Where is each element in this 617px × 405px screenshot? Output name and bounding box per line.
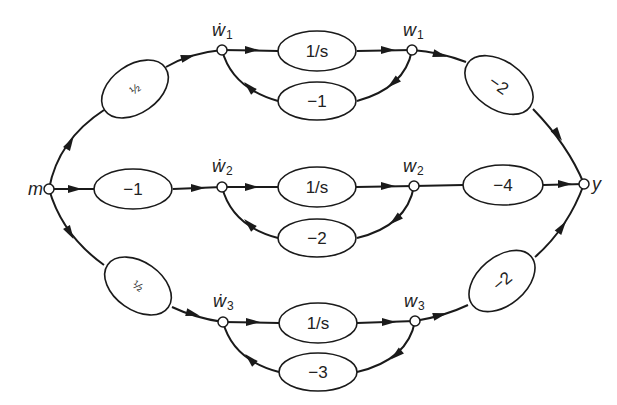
- svg-text:ẇ: ẇ: [212, 156, 226, 176]
- svg-text:1: 1: [226, 28, 233, 42]
- edge-w1-feedback-in: [222, 50, 278, 101]
- label-w2dot: ẇ 2: [212, 156, 233, 178]
- node-w3dot: [218, 317, 228, 327]
- edge-neg2-upper-to-y: [533, 109, 584, 184]
- svg-text:−1: −1: [123, 180, 142, 199]
- block-feedback-3: −3: [279, 353, 357, 391]
- svg-text:−2: −2: [307, 229, 326, 248]
- label-w1dot: ẇ 1: [212, 20, 233, 42]
- node-w3: [410, 316, 420, 326]
- label-w3dot: ẇ 3: [213, 291, 234, 313]
- block-neg4: −4: [463, 165, 543, 205]
- edge-w2-feedback-out: [357, 186, 414, 238]
- svg-text:−1: −1: [307, 92, 326, 111]
- block-half-upper: ½: [91, 48, 179, 130]
- svg-text:2: 2: [417, 164, 424, 178]
- node-w1: [407, 45, 417, 55]
- label-w2: w 2: [403, 156, 424, 178]
- svg-text:3: 3: [418, 299, 425, 313]
- svg-text:2: 2: [226, 164, 233, 178]
- edge-w3-feedback-out: [357, 321, 415, 372]
- svg-text:3: 3: [227, 299, 234, 313]
- label-m: m: [28, 179, 43, 199]
- label-y: y: [590, 174, 602, 194]
- svg-text:1: 1: [417, 28, 424, 42]
- node-m: [44, 184, 54, 194]
- svg-text:ẇ: ẇ: [212, 20, 226, 40]
- label-w1: w 1: [403, 20, 424, 42]
- block-integrator-3: 1/s: [279, 303, 357, 343]
- edge-half-upper-to-w1dot: [166, 50, 222, 67]
- edge-m-to-half-upper: [49, 110, 104, 189]
- edge-w2-feedback-in: [222, 187, 278, 238]
- svg-text:1/s: 1/s: [306, 42, 329, 61]
- edge-neg2-lower-to-y: [535, 184, 584, 257]
- svg-text:−3: −3: [308, 363, 327, 382]
- svg-text:w: w: [403, 156, 417, 176]
- node-w2dot: [217, 182, 227, 192]
- svg-text:ẇ: ẇ: [213, 291, 227, 311]
- block-feedback-1: −1: [278, 82, 356, 120]
- svg-text:−4: −4: [493, 176, 512, 195]
- block-integrator-2: 1/s: [278, 167, 356, 207]
- edge-m-to-half-lower: [49, 189, 104, 265]
- node-y: [579, 179, 589, 189]
- block-integrator-1: 1/s: [278, 31, 356, 71]
- svg-text:w: w: [404, 291, 418, 311]
- node-w2: [409, 181, 419, 191]
- edge-w1-feedback-out: [357, 50, 412, 101]
- block-feedback-2: −2: [278, 219, 356, 257]
- svg-text:1/s: 1/s: [306, 178, 329, 197]
- block-neg2-lower: −2: [457, 238, 546, 324]
- block-half-lower: ½: [94, 245, 182, 327]
- label-w3: w 3: [404, 291, 425, 313]
- block-neg1-input: −1: [94, 169, 172, 209]
- signal-flow-graph: ½ −1 ½ 1/s −1 1/s −2 1/s −3 −2 −4: [0, 0, 617, 405]
- svg-text:w: w: [403, 20, 417, 40]
- block-neg2-upper: −2: [454, 44, 544, 127]
- svg-text:1/s: 1/s: [307, 314, 330, 333]
- edge-w2-to-neg4: [414, 185, 463, 186]
- node-w1dot: [217, 45, 227, 55]
